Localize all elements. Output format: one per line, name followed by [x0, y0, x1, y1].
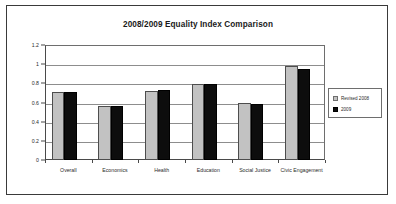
bar-revised-2008-health [145, 91, 158, 160]
x-axis: OverallEconomicsHealthEducationSocial Ju… [45, 160, 325, 182]
x-tick-mark [185, 160, 186, 163]
legend-item: Revised 2008 [333, 96, 369, 101]
x-category-label: Health [154, 167, 169, 173]
y-tick-label: 1 [36, 61, 39, 67]
y-tick-label: 0.6 [32, 100, 39, 106]
chart-screenshot: 2008/2009 Equality Index Comparison 00.2… [0, 0, 396, 204]
x-category-label: Civic Engagement [281, 167, 323, 173]
x-category-label: Social Justice [239, 167, 271, 173]
chart-title: 2008/2009 Equality Index Comparison [0, 20, 396, 29]
y-tick-label: 1.2 [32, 42, 39, 48]
bar-revised-2008-social-justice [238, 103, 251, 161]
x-tick-mark [278, 160, 279, 163]
x-tick-mark [232, 160, 233, 163]
x-tick-mark [92, 160, 93, 163]
legend-item: 2009 [333, 107, 351, 112]
x-tick-mark [325, 160, 326, 163]
bar-group [45, 45, 92, 160]
y-tick-label: 0 [36, 157, 39, 163]
bar-group [138, 45, 185, 160]
bar-group [232, 45, 279, 160]
y-tick-label: 0.8 [32, 80, 39, 86]
legend-swatch-icon [333, 107, 338, 112]
x-category-label: Education [197, 167, 220, 173]
bar-revised-2008-civic-engagement [285, 66, 298, 160]
bar-revised-2008-overall [52, 92, 65, 160]
x-category-label: Overall [60, 167, 76, 173]
bar-revised-2008-education [192, 84, 205, 160]
x-tick-mark [45, 160, 46, 163]
bar-group [92, 45, 139, 160]
bar-revised-2008-economics [98, 106, 111, 160]
bar-2009-social-justice [251, 104, 264, 160]
bar-2009-overall [64, 92, 77, 160]
bar-group [185, 45, 232, 160]
legend-label: Revised 2008 [341, 96, 369, 101]
y-tick-label: 0.4 [32, 119, 39, 125]
legend-label: 2009 [341, 107, 351, 112]
bar-group [278, 45, 325, 160]
x-tick-mark [138, 160, 139, 163]
bar-2009-health [158, 90, 171, 160]
x-category-label: Economics [102, 167, 127, 173]
bars-layer [45, 45, 325, 160]
bar-2009-economics [111, 106, 124, 160]
legend-swatch-icon [333, 96, 338, 101]
bar-2009-education [204, 84, 217, 160]
y-tick-label: 0.2 [32, 138, 39, 144]
chart-legend: Revised 20082009 [328, 88, 382, 118]
y-axis: 00.20.40.60.811.2 [0, 45, 45, 160]
bar-2009-civic-engagement [298, 69, 311, 160]
